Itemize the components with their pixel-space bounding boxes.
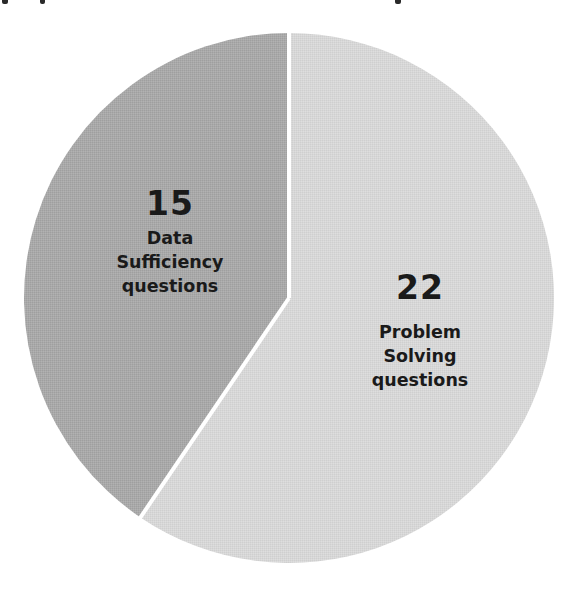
ds-name-line-2: Sufficiency xyxy=(100,250,240,274)
ds-name-line-3: questions xyxy=(100,274,240,298)
ds-name-line-1: Data xyxy=(100,226,240,250)
ds-value: 15 xyxy=(100,186,240,222)
ps-name: Problem Solving questions xyxy=(350,320,490,392)
ds-name: Data Sufficiency questions xyxy=(100,226,240,298)
label-data-sufficiency: 15 Data Sufficiency questions xyxy=(100,186,240,298)
ps-name-line-3: questions xyxy=(350,368,490,392)
ps-value: 22 xyxy=(350,270,490,306)
label-problem-solving: 22 Problem Solving questions xyxy=(350,270,490,392)
ps-name-line-1: Problem xyxy=(350,320,490,344)
pie-chart-svg xyxy=(0,0,577,597)
pie-chart: 15 Data Sufficiency questions 22 Problem… xyxy=(0,0,577,597)
ps-name-line-2: Solving xyxy=(350,344,490,368)
